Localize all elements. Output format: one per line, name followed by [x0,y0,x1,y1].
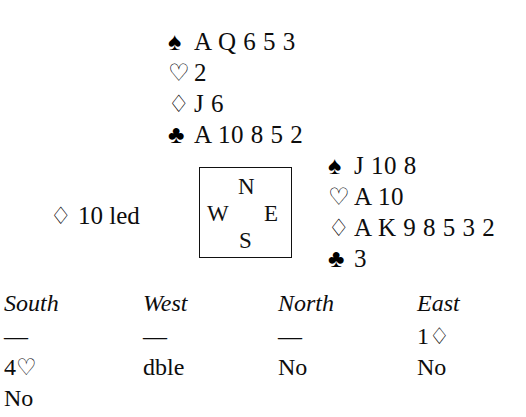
bidding-row: No [0,383,526,414]
heart-icon: ♡ [16,355,37,380]
north-hand: ♠ A Q 6 5 3 ♡ 2 ♢ J 6 ♣ A 10 8 5 2 [168,26,303,150]
east-heart-row: ♡ A 10 [328,181,495,212]
bidding-row: — — — 1♢ [0,321,526,352]
east-club-row: ♣ 3 [328,243,495,274]
spade-icon: ♠ [328,150,354,181]
diamond-icon: ♢ [50,201,78,232]
east-spade-row: ♠ J 10 8 [328,150,495,181]
bid-east-1: 1♢ [417,321,450,352]
north-heart-row: ♡ 2 [168,57,303,88]
spade-icon: ♠ [168,26,194,57]
bid-west-1: — [143,321,166,352]
opening-lead-text: 10 led [78,200,140,231]
east-heart-cards: A 10 [354,181,404,212]
compass-west-label: W [207,202,229,225]
bid-south-2: 4♡ [4,352,37,383]
east-diamond-cards: A K 9 8 5 3 2 [354,212,495,243]
bid-north-1: — [278,321,301,352]
north-heart-cards: 2 [194,57,207,88]
bidding-header-south: South [4,288,59,319]
diamond-icon: ♢ [328,213,354,244]
east-club-cards: 3 [354,243,367,274]
bid-east-2: No [417,352,446,383]
club-icon: ♣ [168,119,194,150]
compass-east-label: E [264,202,278,225]
north-diamond-row: ♢ J 6 [168,88,303,119]
east-hand: ♠ J 10 8 ♡ A 10 ♢ A K 9 8 5 3 2 ♣ 3 [328,150,495,274]
heart-icon: ♡ [328,182,354,213]
bid-south-1: — [4,321,27,352]
bidding-header-row: South West North East [0,288,526,321]
compass-box: N W E S [199,167,292,258]
north-spade-row: ♠ A Q 6 5 3 [168,26,303,57]
bidding-header-east: East [417,288,460,319]
opening-lead-indicator: ♢ 10 led [50,200,140,232]
diamond-icon: ♢ [168,89,194,120]
bid-south-3: No [4,383,33,414]
north-diamond-cards: J 6 [194,88,224,119]
diamond-icon: ♢ [429,324,450,349]
bidding-header-west: West [143,288,187,319]
bid-west-2: dble [143,352,184,383]
bridge-hand-diagram: ♠ A Q 6 5 3 ♡ 2 ♢ J 6 ♣ A 10 8 5 2 ♠ J 1… [0,0,526,417]
north-club-row: ♣ A 10 8 5 2 [168,119,303,150]
compass-north-label: N [238,175,255,198]
north-club-cards: A 10 8 5 2 [194,119,303,150]
bid-north-2: No [278,352,307,383]
east-diamond-row: ♢ A K 9 8 5 3 2 [328,212,495,243]
bidding-header-north: North [278,288,334,319]
north-spade-cards: A Q 6 5 3 [194,26,296,57]
heart-icon: ♡ [168,58,194,89]
bidding-table: South West North East — — — 1♢ 4♡ dble N… [0,288,526,414]
club-icon: ♣ [328,243,354,274]
east-spade-cards: J 10 8 [354,150,417,181]
bidding-row: 4♡ dble No No [0,352,526,383]
compass-south-label: S [239,229,252,252]
